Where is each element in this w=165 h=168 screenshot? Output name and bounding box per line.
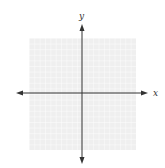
y-axis-down-arrow-icon <box>80 157 85 164</box>
y-axis-up-arrow-icon <box>80 24 85 31</box>
y-axis-label: y <box>78 11 85 21</box>
coordinate-plane: y x <box>0 0 165 168</box>
x-axis-label: x <box>153 88 158 98</box>
x-axis-left-arrow-icon <box>16 91 23 96</box>
x-axis-right-arrow-icon <box>141 91 148 96</box>
